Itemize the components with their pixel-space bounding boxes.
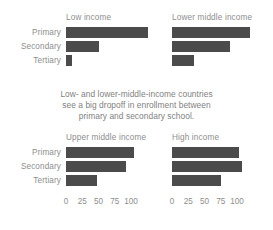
bar-tertiary	[66, 175, 97, 186]
x-tick-0: 0	[64, 197, 69, 206]
panel-lower-middle-income: Lower middle income	[172, 13, 272, 75]
category-labels-top: Primary Secondary Tertiary	[0, 26, 61, 68]
panel-title: High income	[172, 133, 219, 142]
caption-line-3: primary and secondary school.	[0, 111, 273, 122]
bar-tertiary	[66, 55, 72, 66]
bar-primary	[172, 27, 250, 38]
x-tick-50: 50	[200, 197, 209, 206]
bar-primary	[172, 147, 239, 158]
panel-title: Low income	[66, 13, 111, 22]
bar-primary	[66, 27, 148, 38]
category-labels-bottom: Primary Secondary Tertiary	[0, 146, 61, 188]
x-tick-25: 25	[184, 197, 193, 206]
caption-line-1: Low- and lower-middle-income countries	[0, 89, 273, 100]
panel-title: Upper middle income	[66, 133, 146, 142]
x-tick-0: 0	[170, 197, 175, 206]
caption-line-2: see a big dropoff in enrollment between	[0, 100, 273, 111]
panel-title: Lower middle income	[172, 13, 252, 22]
x-tick-75: 75	[110, 197, 119, 206]
bar-primary	[66, 147, 134, 158]
bar-secondary	[66, 41, 99, 52]
figure-root: Low income Lower middle income Primary S…	[0, 0, 273, 230]
panel-low-income: Low income	[66, 13, 176, 75]
category-label-tertiary: Tertiary	[0, 174, 61, 188]
category-label-tertiary: Tertiary	[0, 54, 61, 68]
x-tick-25: 25	[78, 197, 87, 206]
x-tick-50: 50	[94, 197, 103, 206]
bar-secondary	[172, 161, 242, 172]
bar-tertiary	[172, 55, 194, 66]
bar-tertiary	[172, 175, 221, 186]
bar-secondary	[66, 161, 126, 172]
x-axis-upper-middle-income: 0255075100	[66, 197, 146, 209]
x-tick-100: 100	[230, 197, 244, 206]
x-tick-100: 100	[124, 197, 138, 206]
category-label-primary: Primary	[0, 26, 61, 40]
panel-high-income: High income	[172, 133, 272, 195]
category-label-primary: Primary	[0, 146, 61, 160]
panel-upper-middle-income: Upper middle income	[66, 133, 166, 195]
x-tick-75: 75	[216, 197, 225, 206]
bar-secondary	[172, 41, 230, 52]
category-label-secondary: Secondary	[0, 160, 61, 174]
figure-caption: Low- and lower-middle-income countries s…	[0, 89, 273, 123]
x-axis-high-income: 0255075100	[172, 197, 252, 209]
category-label-secondary: Secondary	[0, 40, 61, 54]
